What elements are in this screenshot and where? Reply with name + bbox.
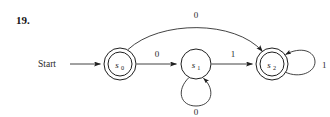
figure-container: 19. Start 0 0 1 0 1 s 0 s 1 [0, 0, 330, 117]
state-s0-inner-circle [108, 52, 132, 76]
state-node-s1[interactable]: s 1 [181, 49, 211, 79]
state-s0-subscript: 0 [121, 64, 124, 71]
self-loop-s1 [181, 78, 211, 107]
transition-label-s1-s2: 1 [231, 49, 236, 59]
state-node-s2[interactable]: s 2 [256, 48, 288, 80]
self-loop-s2 [285, 50, 315, 75]
self-loop-label-s1: 0 [194, 107, 199, 117]
exercise-number: 19. [16, 14, 30, 26]
start-label: Start [38, 59, 56, 69]
state-s1-subscript: 1 [197, 64, 200, 71]
transition-s0-s2-arc [128, 28, 263, 52]
state-s2-inner-circle [260, 52, 284, 76]
state-s1-label: s [192, 60, 196, 70]
state-s0-label: s [115, 60, 119, 70]
self-loop-label-s2: 1 [322, 60, 327, 70]
transition-label-s0-s2: 0 [194, 10, 199, 20]
state-diagram: 19. Start 0 0 1 0 1 s 0 s 1 [0, 0, 330, 117]
state-node-s0[interactable]: s 0 [104, 48, 136, 80]
state-s2-subscript: 2 [273, 64, 276, 71]
transition-label-s0-s1: 0 [155, 49, 160, 59]
state-s1-outer-circle [181, 49, 211, 79]
state-s2-label: s [267, 60, 271, 70]
